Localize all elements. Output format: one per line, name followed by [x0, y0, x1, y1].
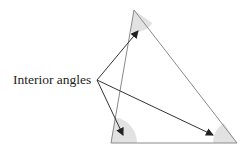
interior-angles-label: Interior angles: [13, 72, 91, 88]
arrow-to-top-angle: [97, 31, 138, 80]
arrow-to-bottom-left-angle: [97, 80, 123, 135]
angle-sector-bottom-right: [213, 123, 237, 143]
triangle: [111, 10, 237, 143]
